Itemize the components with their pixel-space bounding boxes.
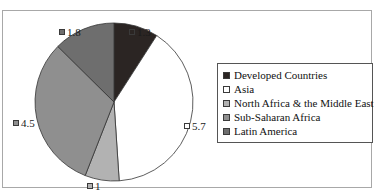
cropped-header-text (6, 0, 206, 6)
data-label-north-africa-middle-east: 1 (87, 180, 101, 192)
legend-swatch-developed-countries (223, 72, 230, 79)
legend-label-asia: Asia (234, 83, 254, 96)
data-label-asia: 5.7 (184, 120, 206, 132)
data-label-sub-saharan-africa: 4.5 (13, 117, 35, 129)
legend-label-developed-countries: Developed Countries (234, 69, 327, 82)
data-label-swatch-north-africa-middle-east (87, 183, 93, 189)
legend-label-latin-america: Latin America (234, 125, 297, 138)
legend-item-latin-america: Latin America (223, 124, 368, 138)
legend-swatch-asia (223, 86, 230, 93)
data-label-value-latin-america: 1.8 (67, 26, 81, 38)
legend-swatch-sub-saharan-africa (223, 114, 230, 121)
legend-swatch-north-africa-middle-east (223, 100, 230, 107)
legend-item-developed-countries: Developed Countries (223, 68, 368, 82)
data-label-value-asia: 5.7 (192, 120, 206, 132)
plot-area: 1.3 5.7 1 4.5 1.8 Developed (3, 11, 371, 187)
legend-label-sub-saharan-africa: Sub-Saharan Africa (234, 111, 320, 124)
legend-label-north-africa-middle-east: North Africa & the Middle East (234, 97, 374, 110)
chart-legend: Developed Countries Asia North Africa & … (217, 63, 373, 143)
data-label-swatch-developed-countries (129, 29, 135, 35)
data-label-value-sub-saharan-africa: 4.5 (21, 117, 35, 129)
pie-slice-group (35, 23, 193, 181)
legend-item-sub-saharan-africa: Sub-Saharan Africa (223, 110, 368, 124)
data-label-swatch-sub-saharan-africa (13, 120, 19, 126)
chart-frame: 1.3 5.7 1 4.5 1.8 Developed (2, 10, 372, 188)
legend-item-north-africa-middle-east: North Africa & the Middle East (223, 96, 368, 110)
legend-item-asia: Asia (223, 82, 368, 96)
data-label-latin-america: 1.8 (59, 26, 81, 38)
data-label-swatch-asia (184, 123, 190, 129)
legend-swatch-latin-america (223, 128, 230, 135)
data-label-developed-countries: 1.3 (129, 26, 151, 38)
data-label-value-north-africa-middle-east: 1 (95, 180, 101, 192)
data-label-swatch-latin-america (59, 29, 65, 35)
pie-chart-screenshot: 1.3 5.7 1 4.5 1.8 Developed (0, 0, 388, 195)
data-label-value-developed-countries: 1.3 (137, 26, 151, 38)
